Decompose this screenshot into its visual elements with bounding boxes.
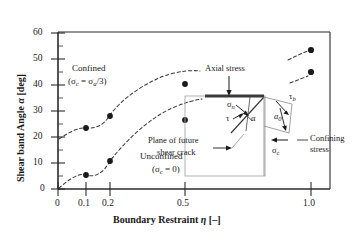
y-axis-title: Shear band Angle α [deg]	[16, 74, 26, 182]
tau-b-label: τb	[289, 92, 296, 103]
x-axis-title-main: Boundary Restraint	[113, 214, 201, 225]
tau-subscript: b	[292, 95, 295, 102]
confined-label-name: Confined	[72, 63, 106, 73]
sigma-c-arrowhead	[271, 137, 277, 142]
data-point	[107, 113, 113, 119]
x-tick-label: 1.0	[303, 199, 315, 209]
a0-label: a0	[274, 112, 282, 123]
tau-label: τ	[226, 114, 229, 123]
confining-stress-label-line2: stress	[310, 145, 329, 154]
x-tick-label: 0.2	[102, 199, 114, 209]
unconfined-condition: (σc = 0)	[152, 165, 180, 176]
a-subscript: 0	[278, 115, 281, 122]
confined-condition: (σc = σa/3)	[68, 77, 106, 88]
x-tick-label: 0	[55, 199, 60, 209]
tau-b-arrowhead	[283, 111, 289, 115]
x-axis-title: Boundary Restraint η [–]	[113, 215, 220, 225]
y-tick-label: 30	[33, 106, 43, 116]
x-axis-title-unit: [–]	[206, 214, 220, 225]
paren-close: = 0)	[163, 164, 180, 174]
sigma-subscript: c	[277, 149, 280, 156]
confining-stress-label-line1: Confining	[310, 134, 344, 143]
crack-plane-label-line2: shear crack	[157, 148, 195, 157]
x-tick-label: 0.1	[78, 199, 90, 209]
data-point	[308, 47, 314, 53]
y-tick-label: 0	[40, 184, 45, 194]
data-point	[83, 172, 89, 178]
axial-stress-label: Axial stress	[205, 64, 245, 73]
data-point	[107, 158, 113, 164]
data-point	[182, 81, 188, 87]
paren-close: /3)	[96, 76, 106, 86]
sigma-subscript: n	[232, 103, 235, 110]
unconfined-trend-line-right	[290, 76, 308, 83]
x-tick-label: 0.5	[177, 199, 189, 209]
y-tick-label: 50	[33, 54, 43, 64]
y-axis-title-main: Shear band Angle	[15, 104, 26, 182]
y-tick-label: 20	[33, 132, 43, 142]
figure-container: 60 50 40 30 20 10 0 0 0.1 0.2 0.5 1.0 Bo…	[0, 0, 364, 236]
equals-sign: =	[79, 76, 89, 86]
y-tick-label: 40	[33, 80, 43, 90]
y-tick-label: 60	[33, 28, 43, 38]
series-confined	[59, 47, 314, 139]
y-axis-title-symbol: α	[15, 98, 26, 104]
confined-label: Confined	[72, 64, 106, 73]
confined-trend-line-right	[288, 51, 308, 60]
alpha-label: α	[251, 114, 255, 123]
crack-plane-label-line1: Plane of future	[148, 136, 199, 145]
a0-arrowhead	[282, 125, 287, 131]
y-tick-label: 10	[33, 158, 43, 168]
sigma-n-label: σn	[227, 100, 235, 111]
y-axis-title-unit: [deg]	[15, 74, 26, 98]
crack-plane-leader-tail	[232, 134, 244, 148]
data-point	[83, 125, 89, 131]
data-point	[308, 69, 314, 75]
sigma-c-label: σc	[272, 146, 279, 157]
crack-plane-leader-arrowhead	[226, 145, 232, 150]
plot-frame	[58, 32, 330, 189]
tau-arrowhead	[239, 113, 245, 119]
